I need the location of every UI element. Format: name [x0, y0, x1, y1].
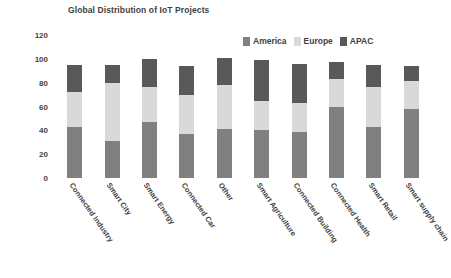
- y-axis-tick-label: 0: [44, 174, 48, 183]
- plot-area: [56, 35, 430, 178]
- bar-column[interactable]: [243, 35, 280, 178]
- bar-segment-apac[interactable]: [179, 66, 194, 95]
- x-axis-tick-label: Smart City: [105, 181, 134, 217]
- bar-segment-america[interactable]: [329, 107, 344, 179]
- bar-segment-apac[interactable]: [292, 64, 307, 103]
- stacked-bar[interactable]: [67, 35, 82, 178]
- stacked-bar[interactable]: [329, 35, 344, 178]
- y-axis: 120100806040200: [0, 35, 52, 178]
- x-axis-tick: Smart Retail: [355, 178, 392, 278]
- x-axis-tick: Connected Health: [318, 178, 355, 278]
- bar-segment-apac[interactable]: [142, 59, 157, 88]
- bar-segment-america[interactable]: [142, 122, 157, 178]
- bar-column[interactable]: [131, 35, 168, 178]
- bar-column[interactable]: [393, 35, 430, 178]
- bar-segment-apac[interactable]: [105, 65, 120, 83]
- x-axis-tick: Smart supply chain: [393, 178, 430, 278]
- bar-column[interactable]: [280, 35, 317, 178]
- stacked-bar[interactable]: [292, 35, 307, 178]
- bar-segment-europe[interactable]: [67, 92, 82, 127]
- bar-segment-america[interactable]: [67, 127, 82, 178]
- y-axis-tick-label: 100: [35, 54, 48, 63]
- x-axis-tick-label: Other: [217, 181, 236, 203]
- bar-column[interactable]: [93, 35, 130, 178]
- stacked-bar[interactable]: [142, 35, 157, 178]
- stacked-bar[interactable]: [105, 35, 120, 178]
- y-axis-tick-label: 40: [39, 126, 48, 135]
- bar-segment-europe[interactable]: [142, 87, 157, 122]
- bar-segment-europe[interactable]: [366, 87, 381, 126]
- bar-column[interactable]: [206, 35, 243, 178]
- stacked-bar[interactable]: [254, 35, 269, 178]
- bar-segment-apac[interactable]: [67, 65, 82, 92]
- bar-segment-america[interactable]: [404, 109, 419, 178]
- y-axis-tick-label: 80: [39, 78, 48, 87]
- bar-segment-apac[interactable]: [254, 60, 269, 101]
- bar-segment-apac[interactable]: [329, 62, 344, 79]
- bar-column[interactable]: [355, 35, 392, 178]
- y-axis-tick-label: 60: [39, 102, 48, 111]
- bar-segment-america[interactable]: [254, 130, 269, 178]
- chart-title: Global Distribution of IoT Projects: [68, 5, 209, 15]
- bar-segment-europe[interactable]: [105, 83, 120, 141]
- bar-segment-america[interactable]: [292, 132, 307, 178]
- bar-segment-america[interactable]: [179, 134, 194, 178]
- bar-segment-apac[interactable]: [404, 66, 419, 81]
- x-axis-tick-label: Smart supply chain: [404, 181, 451, 243]
- bar-segment-europe[interactable]: [292, 103, 307, 132]
- bar-segment-europe[interactable]: [404, 81, 419, 108]
- bar-column[interactable]: [168, 35, 205, 178]
- stacked-bar[interactable]: [404, 35, 419, 178]
- x-axis-tick: Smart Energy: [131, 178, 168, 278]
- stacked-bar[interactable]: [179, 35, 194, 178]
- x-axis-tick: Smart City: [93, 178, 130, 278]
- x-axis-tick: Smart Agriculture: [243, 178, 280, 278]
- stacked-bar[interactable]: [366, 35, 381, 178]
- bar-segment-america[interactable]: [217, 129, 232, 178]
- bar-column[interactable]: [318, 35, 355, 178]
- bar-segment-europe[interactable]: [179, 95, 194, 134]
- x-axis-tick: Connected Industry: [56, 178, 93, 278]
- bar-segment-america[interactable]: [366, 127, 381, 178]
- x-axis-tick: Connected Car: [168, 178, 205, 278]
- bar-group: [56, 35, 430, 178]
- x-axis-tick: Connected Building: [280, 178, 317, 278]
- bar-segment-apac[interactable]: [366, 65, 381, 88]
- bar-segment-europe[interactable]: [254, 101, 269, 131]
- bar-segment-apac[interactable]: [217, 58, 232, 85]
- y-axis-tick-label: 20: [39, 150, 48, 159]
- bar-segment-europe[interactable]: [217, 85, 232, 129]
- x-axis-tick: Other: [206, 178, 243, 278]
- y-axis-tick-label: 120: [35, 31, 48, 40]
- x-axis: Connected IndustrySmart CitySmart Energy…: [56, 178, 430, 278]
- bar-segment-europe[interactable]: [329, 79, 344, 106]
- bar-column[interactable]: [56, 35, 93, 178]
- bar-segment-america[interactable]: [105, 141, 120, 178]
- stacked-bar[interactable]: [217, 35, 232, 178]
